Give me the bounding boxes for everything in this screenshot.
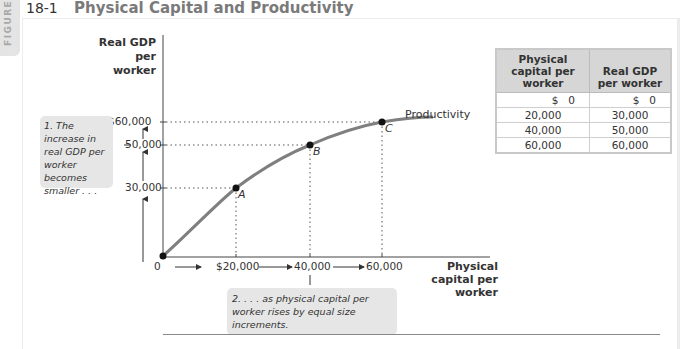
- x-tick-40k: 40,000: [294, 260, 331, 272]
- y-tick-60k: $60,000: [108, 115, 151, 127]
- table-header-gdp: Real GDP per worker: [590, 49, 672, 93]
- guide-lines: [166, 122, 382, 254]
- x-tick-20k: $20,000: [216, 260, 259, 272]
- data-table: Physical capital per worker Real GDP per…: [495, 48, 672, 154]
- x-tick-60k: 60,000: [366, 260, 403, 272]
- table-row: 40,000 50,000: [496, 123, 671, 138]
- y-axis-label: Real GDP per worker: [96, 36, 156, 78]
- y-tick-30k: 30,000: [125, 181, 162, 193]
- point-a-label: A: [238, 188, 246, 201]
- y-tick-50k: 50,000: [125, 138, 162, 150]
- curve-label: Productivity: [405, 108, 470, 121]
- table-row: 20,000 30,000: [496, 108, 671, 123]
- productivity-curve: [163, 117, 433, 256]
- table-header-capital: Physical capital per worker: [496, 49, 590, 93]
- annotation-capital-increments: 2. . . . as physical capital per worker …: [227, 288, 397, 335]
- point-b-label: B: [313, 145, 321, 158]
- point-c-label: C: [385, 122, 393, 135]
- table-row: $ 0 $ 0: [496, 93, 671, 108]
- bottom-rule: [163, 334, 660, 335]
- annotation-gdp-increase: 1. The increase in real GDP per worker b…: [40, 116, 113, 188]
- table-row: 60,000 60,000: [496, 138, 671, 154]
- origin-point: [160, 253, 167, 260]
- x-tick-origin: 0: [154, 260, 161, 272]
- x-axis-label: Physical capital per worker: [418, 260, 498, 299]
